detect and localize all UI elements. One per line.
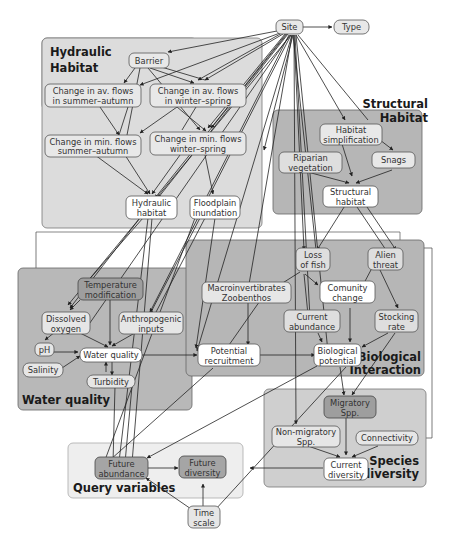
node-min-flows-winter[interactable]: Change in min. flows winter–spring — [150, 132, 246, 155]
svg-text:Connectivity: Connectivity — [361, 433, 413, 443]
node-current-diversity[interactable]: Current diversity — [324, 458, 368, 480]
node-type[interactable]: Type — [334, 20, 369, 34]
node-community-change[interactable]: Comunity change — [320, 281, 375, 303]
node-dissolved-oxygen[interactable]: Dissolved oxygen — [42, 312, 90, 334]
svg-text:Dissolved: Dissolved — [46, 314, 86, 324]
svg-text:Spp.: Spp. — [297, 437, 315, 447]
node-loss-of-fish[interactable]: Loss of fish — [296, 248, 330, 271]
node-future-abundance[interactable]: Future abundance — [95, 457, 148, 479]
svg-text:Barrier: Barrier — [135, 56, 164, 66]
svg-text:Future: Future — [189, 458, 215, 468]
svg-text:simplification: simplification — [323, 135, 378, 145]
group-title-hydraulic: Hydraulic — [50, 45, 112, 59]
group-title-species-2: diversity — [362, 467, 419, 481]
svg-text:potential: potential — [319, 356, 356, 366]
svg-text:Potential: Potential — [211, 346, 247, 356]
svg-text:abundance: abundance — [98, 469, 144, 479]
svg-text:modification: modification — [85, 290, 137, 300]
node-anthropogenic-inputs[interactable]: Anthropogenic inputs — [119, 312, 183, 334]
svg-text:Stocking: Stocking — [379, 312, 415, 322]
svg-text:inundation: inundation — [193, 208, 237, 218]
node-barrier[interactable]: Barrier — [129, 53, 169, 68]
svg-text:habitat: habitat — [336, 197, 366, 207]
node-min-flows-summer[interactable]: Change in min. flows summer–autumn — [45, 135, 141, 157]
svg-text:Current: Current — [296, 312, 328, 322]
svg-text:Macroinvertibrates: Macroinvertibrates — [207, 283, 285, 293]
svg-text:Zoobenthos: Zoobenthos — [222, 293, 271, 303]
svg-text:Temperature: Temperature — [83, 280, 137, 290]
svg-text:recruitment: recruitment — [205, 356, 255, 366]
svg-text:Hydraulic: Hydraulic — [132, 198, 172, 208]
svg-text:Floodplain: Floodplain — [194, 198, 237, 208]
svg-text:scale: scale — [193, 518, 214, 528]
group-title-biological: Biological — [358, 350, 421, 364]
svg-text:oxygen: oxygen — [51, 324, 81, 334]
node-floodplain-inundation[interactable]: Floodplain inundation — [190, 196, 240, 219]
node-temperature-modification[interactable]: Temperature modification — [78, 278, 143, 300]
node-salinity[interactable]: Salinity — [23, 363, 63, 377]
svg-text:threat: threat — [373, 260, 399, 270]
node-water-quality[interactable]: Water quality — [80, 348, 142, 362]
node-biological-potential[interactable]: Biological potential — [314, 344, 361, 366]
svg-text:Future: Future — [108, 459, 134, 469]
node-alien-threat[interactable]: Alien threat — [368, 248, 403, 270]
group-title-species: Species — [369, 454, 419, 468]
svg-text:change: change — [332, 293, 363, 303]
svg-text:of fish: of fish — [300, 260, 325, 270]
node-turbidity[interactable]: Turbidity — [87, 375, 135, 388]
svg-text:Change in min. flows: Change in min. flows — [155, 134, 242, 144]
node-snags[interactable]: Snags — [372, 152, 415, 168]
svg-text:Loss: Loss — [304, 250, 322, 260]
node-habitat-simplification[interactable]: Habitat simplification — [320, 124, 382, 145]
svg-text:Site: Site — [282, 22, 298, 32]
svg-text:Salinity: Salinity — [28, 365, 59, 375]
svg-text:in winter–spring: in winter–spring — [165, 96, 231, 106]
group-title-biological-2: Interaction — [349, 363, 421, 377]
svg-text:Water quality: Water quality — [83, 350, 139, 360]
svg-text:Change in av. flows: Change in av. flows — [158, 86, 239, 96]
svg-text:Habitat: Habitat — [336, 125, 367, 135]
svg-text:Alien: Alien — [375, 250, 396, 260]
node-riparian-vegetation[interactable]: Riparian vegetation — [279, 152, 342, 173]
svg-text:winter–spring: winter–spring — [170, 144, 226, 154]
group-title-structural-2: Habitat — [380, 111, 429, 125]
svg-text:diversity: diversity — [185, 468, 221, 478]
svg-text:abundance: abundance — [289, 322, 335, 332]
node-connectivity[interactable]: Connectivity — [356, 431, 418, 445]
node-av-flows-winter[interactable]: Change in av. flows in winter–spring — [150, 84, 246, 107]
node-stocking-rate[interactable]: Stocking rate — [375, 310, 418, 332]
group-title-hydraulic-2: Habitat — [50, 61, 99, 75]
svg-text:Time: Time — [193, 508, 214, 518]
node-time-scale[interactable]: Time scale — [188, 506, 220, 528]
node-potential-recruitment[interactable]: Potential recruitment — [198, 344, 260, 366]
node-hydraulic-habitat[interactable]: Hydraulic habitat — [126, 196, 177, 219]
svg-text:rate: rate — [388, 322, 405, 332]
svg-text:Migratory: Migratory — [330, 398, 370, 408]
svg-text:Change in av. flows: Change in av. flows — [53, 86, 134, 96]
node-macroinvertebrates-zoobenthos[interactable]: Macroinvertibrates Zoobenthos — [202, 282, 291, 303]
node-non-migratory-spp[interactable]: Non-migratory Spp. — [272, 426, 340, 447]
node-future-diversity[interactable]: Future diversity — [179, 456, 226, 478]
node-site[interactable]: Site — [276, 20, 303, 34]
svg-text:habitat: habitat — [137, 208, 167, 218]
node-migratory-spp[interactable]: Migratory Spp. — [324, 396, 376, 418]
svg-text:Type: Type — [341, 22, 361, 32]
svg-text:Comunity: Comunity — [328, 283, 368, 293]
svg-text:summer–autumn: summer–autumn — [58, 146, 129, 156]
svg-text:in summer–autumn: in summer–autumn — [53, 96, 134, 106]
group-title-structural: Structural — [362, 97, 428, 111]
svg-text:diversity: diversity — [328, 470, 364, 480]
svg-text:Biological: Biological — [318, 346, 358, 356]
svg-text:Spp.: Spp. — [341, 408, 359, 418]
svg-text:pH: pH — [39, 345, 51, 355]
svg-text:vegetation: vegetation — [288, 163, 333, 173]
svg-text:inputs: inputs — [138, 324, 164, 334]
svg-text:Structural: Structural — [330, 187, 371, 197]
bayesian-network-diagram: Hydraulic Habitat Structural Habitat Wat… — [0, 0, 452, 541]
svg-text:Anthropogenic: Anthropogenic — [121, 314, 182, 324]
svg-text:Snags: Snags — [381, 155, 406, 165]
node-av-flows-summer[interactable]: Change in av. flows in summer–autumn — [45, 84, 141, 107]
node-ph[interactable]: pH — [35, 343, 54, 356]
node-current-abundance[interactable]: Current abundance — [284, 310, 340, 332]
node-structural-habitat[interactable]: Structural habitat — [323, 186, 378, 207]
